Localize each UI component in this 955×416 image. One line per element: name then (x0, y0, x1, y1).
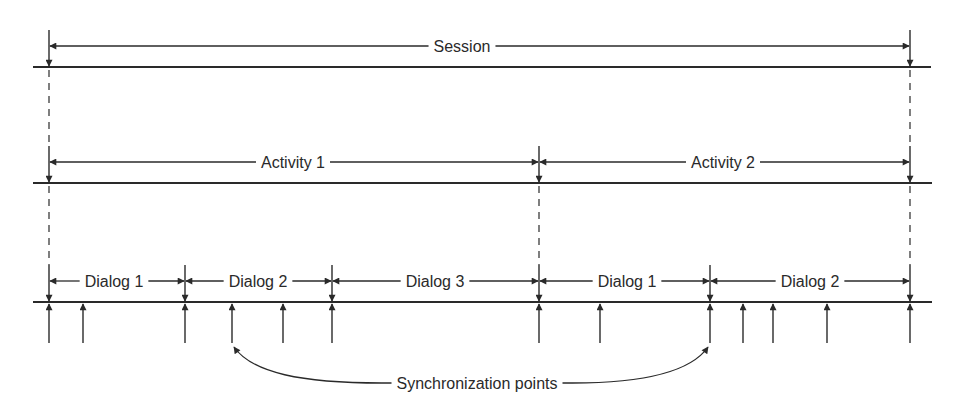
span-dialog-1: Dialog 1 (540, 273, 709, 290)
boundary-ticks (49, 30, 910, 301)
sync-point-arrows (49, 304, 910, 343)
span-session: Session (50, 38, 909, 55)
span-activity-2: Activity 2 (540, 154, 909, 171)
timeline-lines (33, 67, 932, 302)
span-label: Session (434, 38, 491, 55)
sync-annotation: Synchronization points (234, 347, 708, 392)
span-dialog-2: Dialog 2 (186, 273, 331, 290)
dashed-boundary-lines (49, 70, 910, 265)
span-label: Dialog 3 (406, 273, 465, 290)
span-label: Dialog 1 (598, 273, 657, 290)
span-label: Activity 1 (261, 154, 325, 171)
curved-arrow-left (234, 347, 392, 383)
sync-points-label: Synchronization points (397, 375, 558, 392)
span-label: Dialog 2 (781, 273, 840, 290)
span-dialog-1: Dialog 1 (50, 273, 184, 290)
span-dialog-3: Dialog 3 (333, 273, 538, 290)
curved-arrow-right (562, 347, 708, 383)
span-activity-1: Activity 1 (50, 154, 538, 171)
span-arrows: SessionActivity 1Activity 2Dialog 1Dialo… (50, 38, 909, 290)
span-dialog-2: Dialog 2 (711, 273, 909, 290)
session-activity-dialog-diagram: SessionActivity 1Activity 2Dialog 1Dialo… (0, 0, 955, 416)
span-label: Activity 2 (691, 154, 755, 171)
span-label: Dialog 1 (85, 273, 144, 290)
span-label: Dialog 2 (229, 273, 288, 290)
